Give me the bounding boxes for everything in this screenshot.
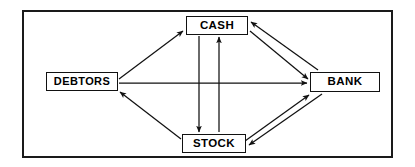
edge-stock-to-bank	[245, 95, 309, 141]
node-debtors-label: DEBTORS	[54, 76, 110, 87]
node-debtors[interactable]: DEBTORS	[46, 72, 118, 91]
edge-debtors-to-cash	[119, 31, 183, 79]
node-stock-label: STOCK	[193, 138, 235, 150]
diagram-canvas: CASH DEBTORS BANK STOCK	[0, 0, 415, 167]
edge-bank-to-cash	[251, 22, 318, 70]
edge-stock-to-debtors	[120, 92, 181, 139]
node-cash-label: CASH	[200, 20, 234, 32]
node-bank[interactable]: BANK	[310, 72, 380, 92]
node-cash[interactable]: CASH	[186, 16, 248, 35]
edge-cash-to-bank	[250, 31, 308, 79]
node-stock[interactable]: STOCK	[182, 134, 246, 153]
edge-bank-to-stock	[249, 94, 322, 145]
node-bank-label: BANK	[328, 76, 363, 88]
